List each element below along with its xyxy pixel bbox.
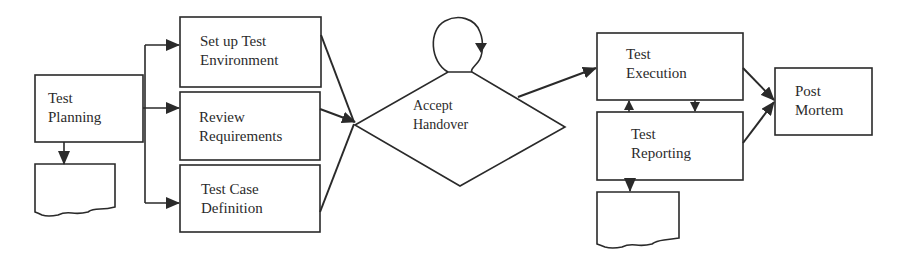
- accept-handover-line-1: Accept: [413, 96, 468, 115]
- test-execution-label: Test Execution: [626, 45, 687, 83]
- post-mortem-line-2: Mortem: [795, 101, 843, 120]
- test-planning-line-1: Test: [48, 89, 101, 108]
- test-case-definition-line-2: Definition: [201, 199, 263, 218]
- post-mortem-line-1: Post: [795, 82, 843, 101]
- handover-loop-path: [433, 18, 482, 72]
- test-planning-label: Test Planning: [48, 89, 101, 127]
- review-requirements-label: Review Requirements: [199, 108, 282, 146]
- test-reporting-label: Test Reporting: [631, 125, 691, 163]
- setup-environment-line-2: Environment: [200, 51, 278, 70]
- test-case-definition-line-1: Test Case: [201, 180, 263, 199]
- test-planning-line-2: Planning: [48, 108, 101, 127]
- edge-handover-to-execution: [518, 68, 596, 97]
- test-execution-line-1: Test: [626, 45, 687, 64]
- loop-arrowhead-icon: [475, 43, 487, 53]
- edge-reporting-to-postmortem: [743, 102, 774, 143]
- review-requirements-line-1: Review: [199, 108, 282, 127]
- review-requirements-line-2: Requirements: [199, 127, 282, 146]
- planning-document-shape: [35, 164, 115, 216]
- accept-handover-label: Accept Handover: [413, 96, 468, 134]
- test-reporting-line-1: Test: [631, 125, 691, 144]
- edge-setup-to-handover: [321, 35, 354, 122]
- setup-environment-line-1: Set up Test: [200, 32, 278, 51]
- reporting-document-shape: [597, 192, 679, 248]
- post-mortem-label: Post Mortem: [795, 82, 843, 120]
- edge-testcase-to-handover: [320, 124, 354, 212]
- accept-handover-line-2: Handover: [413, 115, 468, 134]
- setup-environment-label: Set up Test Environment: [200, 32, 278, 70]
- test-reporting-line-2: Reporting: [631, 144, 691, 163]
- test-execution-line-2: Execution: [626, 64, 687, 83]
- edge-execution-to-postmortem: [743, 68, 774, 100]
- test-case-definition-label: Test Case Definition: [201, 180, 263, 218]
